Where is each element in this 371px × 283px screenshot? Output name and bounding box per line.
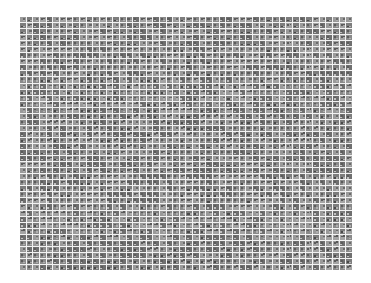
thumbnail-cell[interactable]: [200, 102, 206, 107]
thumbnail-cell[interactable]: [246, 120, 252, 125]
thumbnail-cell[interactable]: [20, 17, 26, 22]
thumbnail-cell[interactable]: [266, 162, 272, 167]
thumbnail-cell[interactable]: [127, 17, 133, 22]
thumbnail-cell[interactable]: [180, 186, 186, 191]
thumbnail-cell[interactable]: [273, 90, 279, 95]
thumbnail-cell[interactable]: [167, 186, 173, 191]
thumbnail-cell[interactable]: [206, 23, 212, 28]
thumbnail-cell[interactable]: [133, 114, 139, 119]
thumbnail-cell[interactable]: [193, 144, 199, 149]
thumbnail-cell[interactable]: [180, 204, 186, 209]
thumbnail-cell[interactable]: [133, 192, 139, 197]
thumbnail-cell[interactable]: [147, 253, 153, 258]
thumbnail-cell[interactable]: [253, 168, 259, 173]
thumbnail-cell[interactable]: [306, 241, 312, 246]
thumbnail-cell[interactable]: [206, 132, 212, 137]
thumbnail-cell[interactable]: [326, 217, 332, 222]
thumbnail-cell[interactable]: [226, 259, 232, 264]
thumbnail-cell[interactable]: [293, 144, 299, 149]
thumbnail-cell[interactable]: [186, 138, 192, 143]
thumbnail-cell[interactable]: [253, 23, 259, 28]
thumbnail-cell[interactable]: [300, 102, 306, 107]
thumbnail-cell[interactable]: [153, 144, 159, 149]
thumbnail-cell[interactable]: [253, 17, 259, 22]
thumbnail-cell[interactable]: [140, 144, 146, 149]
thumbnail-cell[interactable]: [193, 259, 199, 264]
thumbnail-cell[interactable]: [346, 126, 352, 131]
thumbnail-cell[interactable]: [33, 120, 39, 125]
thumbnail-cell[interactable]: [47, 77, 53, 82]
thumbnail-cell[interactable]: [27, 35, 33, 40]
thumbnail-cell[interactable]: [273, 96, 279, 101]
thumbnail-cell[interactable]: [306, 186, 312, 191]
thumbnail-cell[interactable]: [266, 114, 272, 119]
thumbnail-cell[interactable]: [260, 235, 266, 240]
thumbnail-cell[interactable]: [173, 174, 179, 179]
thumbnail-cell[interactable]: [107, 71, 113, 76]
thumbnail-cell[interactable]: [167, 41, 173, 46]
thumbnail-cell[interactable]: [53, 247, 59, 252]
thumbnail-cell[interactable]: [226, 168, 232, 173]
thumbnail-cell[interactable]: [320, 235, 326, 240]
thumbnail-cell[interactable]: [153, 47, 159, 52]
thumbnail-cell[interactable]: [333, 204, 339, 209]
thumbnail-cell[interactable]: [186, 96, 192, 101]
thumbnail-cell[interactable]: [280, 102, 286, 107]
thumbnail-cell[interactable]: [193, 59, 199, 64]
thumbnail-cell[interactable]: [153, 229, 159, 234]
thumbnail-cell[interactable]: [306, 90, 312, 95]
thumbnail-cell[interactable]: [246, 71, 252, 76]
thumbnail-cell[interactable]: [293, 217, 299, 222]
thumbnail-cell[interactable]: [140, 65, 146, 70]
thumbnail-cell[interactable]: [180, 162, 186, 167]
thumbnail-cell[interactable]: [53, 253, 59, 258]
thumbnail-cell[interactable]: [273, 47, 279, 52]
thumbnail-cell[interactable]: [206, 77, 212, 82]
thumbnail-cell[interactable]: [127, 59, 133, 64]
thumbnail-cell[interactable]: [300, 96, 306, 101]
thumbnail-cell[interactable]: [140, 47, 146, 52]
thumbnail-cell[interactable]: [200, 65, 206, 70]
thumbnail-cell[interactable]: [67, 198, 73, 203]
thumbnail-cell[interactable]: [47, 192, 53, 197]
thumbnail-cell[interactable]: [120, 35, 126, 40]
thumbnail-cell[interactable]: [240, 138, 246, 143]
thumbnail-cell[interactable]: [47, 204, 53, 209]
thumbnail-cell[interactable]: [193, 102, 199, 107]
thumbnail-cell[interactable]: [100, 235, 106, 240]
thumbnail-cell[interactable]: [240, 211, 246, 216]
thumbnail-cell[interactable]: [33, 198, 39, 203]
thumbnail-cell[interactable]: [87, 47, 93, 52]
thumbnail-cell[interactable]: [47, 223, 53, 228]
thumbnail-cell[interactable]: [340, 235, 346, 240]
thumbnail-cell[interactable]: [326, 235, 332, 240]
thumbnail-cell[interactable]: [20, 174, 26, 179]
thumbnail-cell[interactable]: [213, 53, 219, 58]
thumbnail-cell[interactable]: [220, 211, 226, 216]
thumbnail-cell[interactable]: [253, 204, 259, 209]
thumbnail-cell[interactable]: [120, 168, 126, 173]
thumbnail-cell[interactable]: [67, 108, 73, 113]
thumbnail-cell[interactable]: [260, 168, 266, 173]
thumbnail-cell[interactable]: [200, 96, 206, 101]
thumbnail-cell[interactable]: [333, 223, 339, 228]
thumbnail-cell[interactable]: [33, 186, 39, 191]
thumbnail-cell[interactable]: [313, 180, 319, 185]
thumbnail-cell[interactable]: [260, 102, 266, 107]
thumbnail-cell[interactable]: [233, 53, 239, 58]
thumbnail-cell[interactable]: [266, 138, 272, 143]
thumbnail-cell[interactable]: [133, 217, 139, 222]
thumbnail-cell[interactable]: [200, 138, 206, 143]
thumbnail-cell[interactable]: [186, 174, 192, 179]
thumbnail-cell[interactable]: [173, 217, 179, 222]
thumbnail-cell[interactable]: [93, 90, 99, 95]
thumbnail-cell[interactable]: [167, 35, 173, 40]
thumbnail-cell[interactable]: [313, 198, 319, 203]
thumbnail-cell[interactable]: [160, 71, 166, 76]
thumbnail-cell[interactable]: [253, 47, 259, 52]
thumbnail-cell[interactable]: [186, 65, 192, 70]
thumbnail-cell[interactable]: [206, 59, 212, 64]
thumbnail-cell[interactable]: [87, 211, 93, 216]
thumbnail-cell[interactable]: [320, 247, 326, 252]
thumbnail-cell[interactable]: [60, 192, 66, 197]
